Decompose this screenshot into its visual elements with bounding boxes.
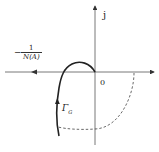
origin-label: 0 <box>100 79 105 87</box>
dashed-closing-arc <box>58 73 134 129</box>
nyquist-curve-label: ΓG <box>62 104 72 115</box>
curve-direction-arrow-icon <box>55 98 60 104</box>
fraction-numerator: 1 <box>27 44 35 52</box>
nyquist-diagram <box>0 0 159 152</box>
neg-inverse-describing-function-label: 1 N(A) <box>21 44 42 61</box>
imag-axis-label: j <box>103 10 106 20</box>
fraction-denominator: N(A) <box>21 52 42 61</box>
nyquist-curve <box>57 62 95 136</box>
gamma-subscript: G <box>68 109 72 115</box>
locus-direction-arrow-icon <box>31 70 37 75</box>
